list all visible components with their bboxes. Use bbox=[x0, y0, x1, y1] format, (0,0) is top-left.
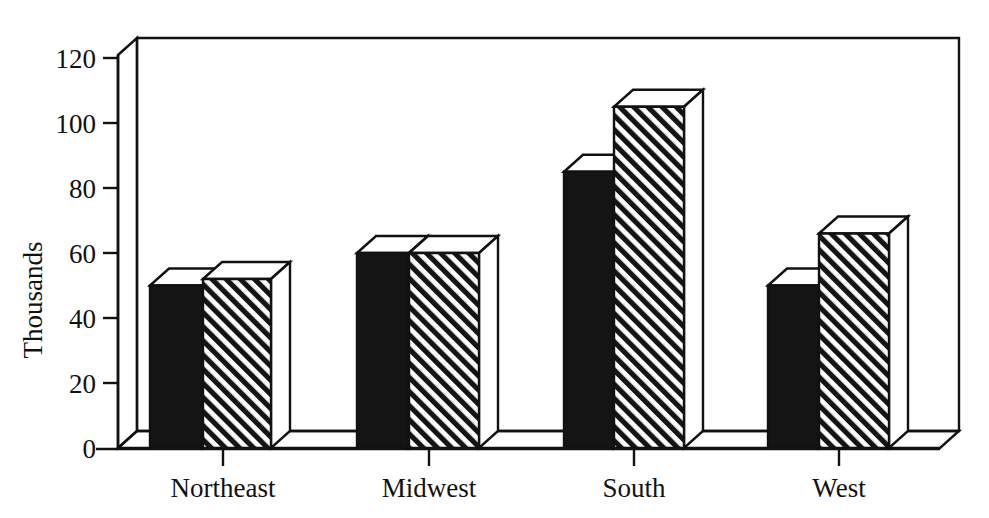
y-axis-ticks bbox=[103, 58, 118, 383]
bar-front-face bbox=[409, 253, 479, 448]
y-tick-label-100: 100 bbox=[56, 109, 97, 139]
y-tick-label-40: 40 bbox=[69, 304, 96, 334]
y-axis-tick-labels: 120 100 80 60 40 20 0 bbox=[56, 44, 97, 464]
bar-front-face bbox=[614, 107, 684, 448]
bar-side-face bbox=[889, 217, 908, 449]
bar-west-series-2[interactable] bbox=[819, 217, 908, 449]
bar-northeast-series-2[interactable] bbox=[203, 262, 290, 448]
bar-side-face bbox=[684, 90, 703, 448]
bar-front-face bbox=[819, 234, 889, 449]
x-label-midwest: Midwest bbox=[382, 473, 477, 503]
y-tick-label-80: 80 bbox=[69, 174, 96, 204]
bar-front-face bbox=[564, 172, 614, 448]
bar-front-face bbox=[203, 279, 271, 448]
x-label-south: South bbox=[602, 473, 666, 503]
bar-south-series-2[interactable] bbox=[614, 90, 703, 448]
x-label-northeast: Northeast bbox=[171, 473, 276, 503]
plot-left-wall bbox=[118, 38, 137, 448]
bar-side-face bbox=[479, 236, 498, 448]
bar-group-northeast bbox=[150, 262, 290, 448]
bar-midwest-series-2[interactable] bbox=[409, 236, 498, 448]
y-tick-label-60: 60 bbox=[69, 239, 96, 269]
x-label-west: West bbox=[812, 473, 866, 503]
y-axis-title: Thousands bbox=[18, 242, 48, 359]
bar-front-face bbox=[150, 286, 203, 449]
bar-front-face bbox=[768, 286, 819, 449]
bar-front-face bbox=[357, 253, 409, 448]
bar-group-west bbox=[768, 217, 908, 449]
x-axis-ticks bbox=[223, 449, 839, 466]
y-tick-label-120: 120 bbox=[56, 44, 97, 74]
bar-side-face bbox=[271, 262, 290, 448]
y-tick-label-20: 20 bbox=[69, 369, 96, 399]
chart-canvas: 120 100 80 60 40 20 0 Thousands bbox=[0, 0, 989, 518]
bar-group-midwest bbox=[357, 236, 498, 448]
x-axis-category-labels: Northeast Midwest South West bbox=[171, 473, 867, 503]
bar-chart-figure: 120 100 80 60 40 20 0 Thousands bbox=[0, 0, 989, 518]
y-tick-label-0: 0 bbox=[83, 434, 97, 464]
bar-group-south bbox=[564, 90, 703, 448]
